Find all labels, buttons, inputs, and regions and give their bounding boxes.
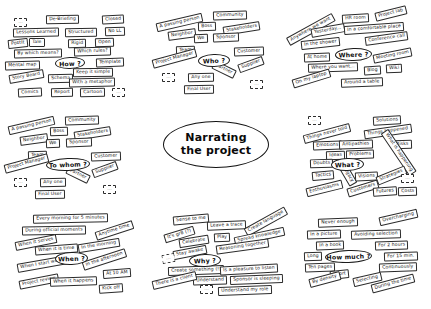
question-oval-where[interactable]: Where ? (335, 47, 372, 61)
idea-note[interactable]: Understand my role (218, 285, 272, 296)
mindmap-canvas: ...De-BriefingClosedLessons LearnedStruc… (0, 0, 431, 309)
idea-note[interactable]: For 15 min. (384, 251, 418, 262)
idea-note[interactable]: Final User (35, 190, 65, 200)
idea-note[interactable]: Emotions (313, 141, 342, 151)
idea-note[interactable]: Keep it simple (73, 68, 113, 78)
central-topic-line2: the project (181, 145, 251, 158)
idea-note[interactable]: Conference call (365, 31, 409, 46)
idea-note[interactable]: De-Briefing (46, 15, 79, 25)
idea-note[interactable]: Meeting room (372, 47, 413, 64)
idea-note[interactable]: Project Manager (152, 48, 198, 69)
idea-note[interactable]: Never enough (318, 217, 358, 228)
central-topic-oval: Narrating the project (163, 121, 269, 168)
idea-note[interactable]: Kick off (99, 283, 124, 294)
idea-note[interactable]: Neighbor (167, 28, 196, 41)
idea-note[interactable]: Leave a trace (207, 220, 246, 231)
idea-note[interactable]: At home (304, 53, 331, 63)
blank-note[interactable]: ... (103, 185, 116, 194)
idea-note[interactable]: Blog (364, 66, 381, 76)
idea-note[interactable]: Costs (398, 187, 418, 197)
idea-note[interactable]: Report (51, 88, 73, 98)
idea-note[interactable]: No LL (105, 27, 125, 37)
idea-note[interactable]: Sponsor (213, 33, 239, 43)
idea-note[interactable]: We (194, 34, 208, 44)
idea-note[interactable]: Solutions (373, 115, 402, 126)
idea-note[interactable]: Boss (198, 22, 216, 32)
idea-note[interactable]: We (46, 139, 60, 149)
idea-note[interactable]: Comics (18, 87, 42, 98)
idea-note[interactable]: Any one (40, 178, 66, 188)
idea-note[interactable]: Avoiding selection (351, 229, 401, 240)
idea-note[interactable]: Tale (29, 38, 45, 47)
idea-note[interactable]: Closed (102, 14, 125, 25)
idea-note[interactable]: For 2 hours (375, 240, 409, 251)
idea-note[interactable]: Customer (234, 46, 264, 56)
idea-note[interactable]: Enthusiasms (305, 180, 343, 198)
blank-note[interactable]: ... (162, 73, 175, 82)
idea-note[interactable]: Project Manager (4, 153, 50, 174)
idea-note[interactable]: In a picture (307, 229, 341, 240)
idea-note[interactable]: Community (213, 10, 247, 21)
idea-note[interactable]: Every morning for 5 minutes (33, 213, 108, 224)
idea-note[interactable]: Sense to me (173, 213, 210, 225)
blank-note[interactable]: ... (14, 178, 27, 187)
idea-note[interactable]: With a metaphor (69, 78, 116, 88)
idea-note[interactable]: Supplier (91, 161, 119, 179)
idea-note[interactable]: Doubts (310, 159, 334, 169)
idea-note[interactable]: Boss (50, 127, 68, 137)
idea-note[interactable]: Which rules? (74, 46, 111, 57)
idea-note[interactable]: Story Board (8, 69, 44, 84)
idea-note[interactable]: HR room (342, 13, 370, 24)
idea-note[interactable]: In the shower (301, 37, 341, 50)
question-oval-how-much[interactable]: How much ? (325, 249, 372, 264)
idea-note[interactable]: Final User (184, 85, 214, 95)
idea-note[interactable]: By density (308, 271, 341, 288)
idea-note[interactable]: Customer (91, 151, 121, 161)
idea-note[interactable]: Sponsor (66, 138, 92, 148)
idea-note[interactable]: At 10 AM (103, 268, 132, 279)
idea-note[interactable]: Overcharging (378, 209, 418, 227)
idea-note[interactable]: Cartoon (80, 88, 105, 98)
idea-note[interactable]: Template (96, 58, 124, 68)
idea-note[interactable]: Community (65, 115, 99, 126)
idea-note[interactable]: Continuously (379, 262, 417, 273)
blank-note[interactable]: ... (200, 285, 213, 294)
idea-note[interactable]: By which means? (14, 49, 62, 59)
idea-note[interactable]: Supplier (237, 56, 265, 74)
idea-note[interactable]: Tactics (312, 170, 335, 181)
idea-note[interactable]: Sponsor is sleeping (230, 274, 283, 285)
idea-note[interactable]: Around a table (341, 77, 383, 88)
idea-note[interactable]: In a book (316, 241, 345, 251)
idea-note[interactable]: When it happens (50, 276, 97, 287)
question-oval-what[interactable]: What ? (331, 157, 364, 171)
question-oval-to-whom[interactable]: To whom ? (46, 157, 90, 172)
idea-note[interactable]: Play (214, 233, 231, 243)
idea-note[interactable]: Long (304, 252, 322, 262)
blank-note[interactable]: ... (401, 174, 414, 183)
idea-note[interactable]: Lessons Learned (13, 28, 59, 38)
blank-note[interactable]: ... (112, 88, 125, 97)
blank-note[interactable]: ... (161, 253, 175, 264)
blank-note[interactable]: ... (308, 116, 321, 125)
idea-note[interactable]: A passing person (8, 116, 56, 136)
idea-note[interactable]: Futures (373, 186, 398, 197)
central-topic-line1: Narrating (185, 132, 246, 145)
idea-note[interactable]: Neighbor (19, 133, 48, 146)
blank-note[interactable]: ... (14, 18, 27, 27)
idea-note[interactable]: Project lab (374, 5, 407, 22)
blank-note[interactable]: ... (250, 80, 263, 89)
idea-note[interactable]: Antipathies (339, 139, 373, 150)
idea-note[interactable]: Wiki (386, 64, 403, 74)
idea-note[interactable]: Any one (188, 73, 214, 83)
idea-note[interactable]: PostIt (8, 38, 29, 49)
idea-note[interactable]: Structured (65, 28, 97, 38)
